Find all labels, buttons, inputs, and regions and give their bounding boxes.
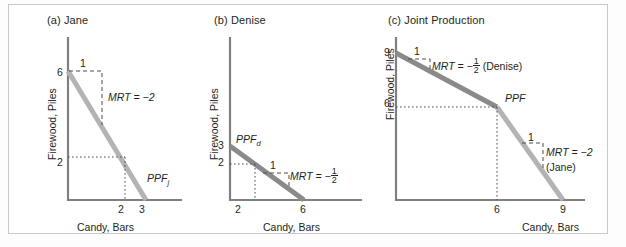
- plot-denise: [190, 0, 380, 230]
- mrt-denise-fraction: 12: [331, 167, 338, 185]
- mrt-label-jane: MRT = −2: [108, 91, 155, 103]
- rise-label-denise: 1: [270, 159, 276, 171]
- mrt-joint-denise-text: MRT = −: [432, 60, 473, 72]
- rise-label-joint-jane: 1: [528, 131, 534, 143]
- figure-root: (a) Jane Firewood, Piles Candy, Bars 6 2…: [0, 0, 626, 247]
- mrt-joint-denise-who: (Denise): [483, 60, 523, 72]
- panel-joint-production: (c) Joint Production Firewood, Piles Can…: [370, 0, 626, 230]
- ppf-label-jane-text: PPF: [147, 172, 167, 184]
- panel-jane: (a) Jane Firewood, Piles Candy, Bars 6 2…: [0, 0, 200, 230]
- ppf-label-denise: PPFd: [236, 133, 261, 148]
- mrt-label-joint-denise: MRT = −12(Denise): [432, 58, 522, 76]
- ppf-label-jane: PPFj: [147, 172, 169, 187]
- plot-jane: [0, 0, 200, 230]
- ppf-label-denise-text: PPF: [236, 133, 256, 145]
- plot-joint: [370, 0, 626, 230]
- fraction-denominator: 2: [473, 66, 480, 75]
- ppf-label-joint: PPF: [505, 92, 525, 104]
- mrt-denise-text: MRT = −: [290, 170, 331, 182]
- mrt-label-denise: MRT = −12: [290, 168, 338, 186]
- panel-denise: (b) Denise Firewood, Piles Candy, Bars 3…: [190, 0, 380, 230]
- ppf-label-denise-sub: d: [256, 139, 260, 148]
- rise-label-joint-denise: 1: [414, 45, 420, 57]
- mrt-label-joint-jane: MRT = −2: [546, 146, 593, 158]
- ppf-label-jane-sub: j: [167, 178, 169, 187]
- mrt-label-joint-jane-who: (Jane): [546, 161, 576, 173]
- mrt-joint-denise-fraction: 12: [473, 57, 480, 75]
- fraction-denominator: 2: [331, 176, 338, 185]
- rise-label-jane: 1: [80, 57, 86, 69]
